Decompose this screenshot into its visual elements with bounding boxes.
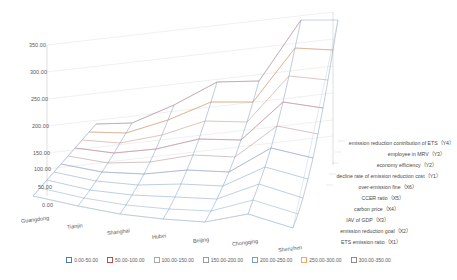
legend-swatch-icon	[154, 257, 160, 263]
legend-swatch-icon	[203, 257, 209, 263]
legend-label: 50.00-100.00	[115, 257, 144, 263]
legend-item-band-3[interactable]: 100.00-150.00	[154, 257, 194, 263]
chart-legend: 0.00-50.00 50.00-100.00 100.00-150.00 15…	[0, 257, 457, 263]
series-label-x4: carbon price（X4）	[354, 205, 399, 212]
y-tick-200: 200.00	[11, 123, 49, 129]
legend-label: 150.00-200.00	[211, 257, 243, 263]
legend-label: 300.00-350.00	[359, 257, 391, 263]
legend-item-band-5[interactable]: 200.00-250.00	[252, 257, 292, 263]
y-tick-50: 50.00	[14, 184, 52, 190]
series-label-x3: IAV of GDP（X3）	[346, 216, 389, 223]
y-tick-300: 300.00	[9, 69, 47, 75]
legend-label: 100.00-150.00	[162, 257, 194, 263]
legend-swatch-icon	[66, 257, 72, 263]
legend-item-band-7[interactable]: 300.00-350.00	[351, 257, 391, 263]
series-label-x2: emission reduction goal（X2）	[340, 227, 411, 234]
legend-swatch-icon	[301, 257, 307, 263]
legend-label: 250.00-300.00	[309, 257, 341, 263]
surface-chart-3d: 350.00 300.00 250.00 200.00 150.00 100.0…	[0, 0, 457, 280]
series-label-y1: decline rate of emission reduction cost（…	[336, 172, 441, 179]
series-label-y4: emission reduction contribution of ETS（Y…	[349, 139, 454, 146]
series-label-y3: employee in MRV（Y3）	[388, 150, 445, 157]
series-label-x6: over-emission fine（X6）	[359, 183, 417, 190]
y-tick-250: 250.00	[10, 96, 48, 102]
legend-label: 0.00-50.00	[74, 257, 98, 263]
value-axis-line	[47, 12, 333, 196]
series-label-x1: ETS emission ratio（X1）	[341, 238, 401, 245]
legend-swatch-icon	[252, 257, 258, 263]
y-tick-350: 350.00	[8, 42, 46, 48]
surface-rows	[33, 20, 338, 228]
series-label-y2: economy efficiency（Y2）	[377, 161, 437, 168]
legend-label: 200.00-250.00	[260, 257, 292, 263]
y-tick-0: 0.00	[15, 202, 53, 208]
y-tick-150: 150.00	[12, 150, 50, 156]
legend-item-band-1[interactable]: 0.00-50.00	[66, 257, 98, 263]
legend-item-band-6[interactable]: 250.00-300.00	[301, 257, 341, 263]
surface-contour-highlights	[61, 20, 333, 174]
legend-swatch-icon	[107, 257, 113, 263]
legend-swatch-icon	[351, 257, 357, 263]
series-label-x5: CCER ratio（X5）	[361, 194, 404, 201]
legend-item-band-2[interactable]: 50.00-100.00	[107, 257, 144, 263]
legend-item-band-4[interactable]: 150.00-200.00	[203, 257, 243, 263]
y-tick-100: 100.00	[13, 166, 51, 172]
